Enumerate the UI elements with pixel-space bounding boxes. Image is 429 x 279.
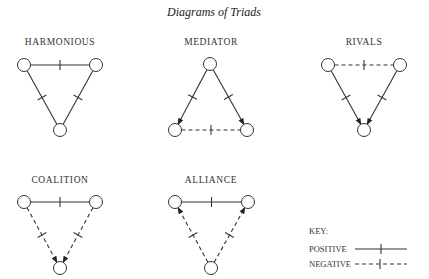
key-negative-label: NEGATIVE — [309, 259, 351, 269]
triads-layer: HARMONIOUSMEDIATORRIVALSCOALITIONALLIANC… — [18, 37, 407, 275]
node-bottom — [54, 262, 67, 275]
node-bottom — [205, 262, 218, 275]
triad-diagram-canvas: Diagrams of Triads HARMONIOUSMEDIATORRIV… — [0, 0, 429, 279]
sign-tick — [38, 95, 47, 100]
key-positive-label: POSITIVE — [309, 244, 347, 254]
sign-tick — [342, 95, 351, 100]
node-top — [204, 58, 217, 71]
triad-label: COALITION — [31, 175, 88, 185]
sign-tick — [189, 233, 198, 238]
triad-rivals: RIVALS — [322, 37, 407, 137]
node-right — [394, 59, 407, 72]
triad-alliance: ALLIANCE — [169, 175, 255, 275]
key-heading: KEY: — [309, 226, 328, 236]
node-right — [242, 196, 255, 209]
diagram-title: Diagrams of Triads — [166, 5, 261, 19]
node-right — [90, 59, 103, 72]
triad-label: MEDIATOR — [184, 37, 238, 47]
sign-tick — [74, 233, 83, 238]
sign-tick — [225, 233, 234, 238]
node-bottom — [358, 124, 371, 137]
sign-tick — [38, 233, 47, 238]
node-left — [18, 59, 31, 72]
triad-label: ALLIANCE — [185, 175, 237, 185]
node-left — [322, 59, 335, 72]
node-left — [18, 196, 31, 209]
sign-tick — [224, 95, 233, 100]
sign-tick — [188, 95, 197, 100]
triad-label: HARMONIOUS — [25, 37, 95, 47]
legend-key: KEY: POSITIVE NEGATIVE — [309, 226, 407, 269]
sign-tick — [74, 95, 83, 100]
triad-mediator: MEDIATOR — [169, 37, 254, 137]
triad-label: RIVALS — [346, 37, 383, 47]
node-left — [169, 124, 182, 137]
triad-harmonious: HARMONIOUS — [18, 37, 103, 137]
triad-coalition: COALITION — [18, 175, 103, 275]
sign-tick — [378, 95, 387, 100]
node-left — [169, 196, 182, 209]
node-right — [241, 124, 254, 137]
node-right — [90, 196, 103, 209]
node-bottom — [54, 124, 67, 137]
